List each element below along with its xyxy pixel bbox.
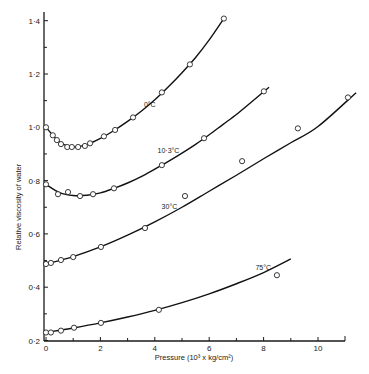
y-tick-label: 1·0 [28, 123, 40, 132]
data-point-marker [58, 141, 63, 146]
data-point-marker [43, 261, 48, 266]
fit-curve [46, 259, 291, 333]
data-point-marker [98, 320, 103, 325]
data-point-marker [43, 125, 48, 130]
data-point-marker [98, 244, 103, 249]
series-75Cc: 75°C [43, 259, 290, 335]
viscosity-pressure-chart: 0·20·40·60·81·01·21·4 Relative viscosity… [0, 0, 369, 374]
data-point-marker [159, 163, 164, 168]
data-point-marker [221, 16, 226, 21]
y-tick-label: 0·8 [28, 177, 40, 186]
y-axis: 0·20·40·60·81·01·21·4 Relative viscosity… [14, 12, 48, 346]
fit-curve [46, 87, 269, 195]
series-layer: 0°C10·3°C30°C75°C [43, 16, 356, 335]
series-30Cc: 30°C [43, 93, 356, 267]
data-point-marker [87, 141, 92, 146]
y-tick-label: 0·2 [28, 337, 40, 346]
data-point-marker [345, 95, 350, 100]
data-point-marker [71, 254, 76, 259]
data-point-marker [90, 192, 95, 197]
data-point-marker [71, 325, 76, 330]
data-point-marker [58, 328, 63, 333]
series-label: 0°C [144, 101, 156, 108]
x-tick-label: 10 [314, 344, 323, 353]
data-point-marker [43, 182, 48, 187]
y-tick-label: 0·4 [28, 283, 40, 292]
x-axis-title: Pressure (10³ x kg/cm²) [155, 353, 234, 362]
data-point-marker [48, 260, 53, 265]
data-point-marker [69, 144, 74, 149]
x-tick-label: 2 [98, 344, 103, 353]
series-103Cc: 10·3°C [43, 87, 269, 198]
data-point-marker [130, 115, 135, 120]
x-tick-label: 4 [153, 344, 158, 353]
data-point-marker [156, 307, 161, 312]
data-point-marker [159, 90, 164, 95]
data-point-marker [75, 144, 80, 149]
y-axis-title: Relative viscosity of water [14, 163, 23, 250]
data-point-marker [65, 189, 70, 194]
data-point-marker [240, 159, 245, 164]
x-tick-label: 0 [44, 344, 49, 353]
series-0Cc: 0°C [43, 16, 226, 150]
data-point-marker [54, 137, 59, 142]
data-point-marker [201, 136, 206, 141]
series-label: 30°C [162, 203, 178, 210]
data-point-marker [82, 143, 87, 148]
data-point-marker [187, 62, 192, 67]
y-tick-label: 0·6 [28, 230, 40, 239]
data-point-marker [261, 89, 266, 94]
series-label: 10·3°C [158, 147, 180, 154]
y-tick-label: 1·2 [28, 70, 40, 79]
fit-curve [46, 18, 224, 147]
data-point-marker [274, 273, 279, 278]
y-tick-label: 1·4 [28, 17, 40, 26]
data-point-marker [48, 330, 53, 335]
series-label: 75°C [255, 264, 271, 271]
data-point-marker [112, 127, 117, 132]
x-tick-label: 6 [207, 344, 212, 353]
data-point-marker [58, 257, 63, 262]
data-point-marker [142, 225, 147, 230]
data-point-marker [295, 126, 300, 131]
x-ticks: 0246810 [44, 337, 323, 353]
data-point-marker [55, 192, 60, 197]
x-tick-label: 8 [261, 344, 266, 353]
data-point-marker [101, 134, 106, 139]
x-axis: 0246810 Pressure (10³ x kg/cm²) [44, 336, 345, 362]
data-point-marker [77, 193, 82, 198]
y-ticks: 0·20·40·60·81·01·21·4 [28, 17, 48, 346]
data-point-marker [43, 330, 48, 335]
data-point-marker [50, 133, 55, 138]
data-point-marker [111, 186, 116, 191]
fit-curve [46, 93, 356, 264]
data-point-marker [182, 193, 187, 198]
